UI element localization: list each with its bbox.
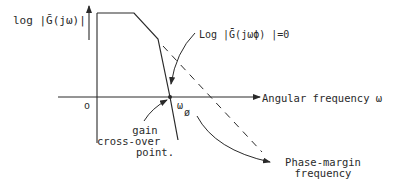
gain-crossover-line-3: point.	[95, 147, 185, 158]
phase-margin-label: Phase-margin frequency	[278, 157, 368, 179]
magnitude-curve	[97, 13, 178, 140]
y-axis-label: log |Ḡ(jω)|	[13, 15, 86, 26]
origin-label: o	[84, 101, 90, 111]
phase-margin-pointer-arrow	[197, 116, 270, 162]
gain-crossover-pointer-arrow	[144, 100, 167, 121]
condition-label: Log |Ḡ(jωϕ) |=0	[199, 30, 289, 40]
x-axis-label: Angular frequency ω	[262, 93, 382, 104]
phase-margin-line-2: frequency	[278, 168, 368, 179]
crossover-frequency-label: ω	[177, 101, 183, 111]
gain-crossover-label: gain cross-over point.	[95, 125, 185, 158]
crossover-frequency-subscript: ø	[184, 108, 190, 118]
crossover-point	[168, 95, 172, 99]
